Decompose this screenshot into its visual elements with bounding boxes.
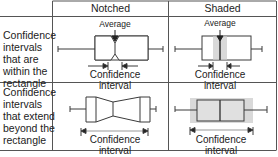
row-label-line: within the — [3, 65, 56, 77]
row-label-line: Confidence — [3, 29, 56, 41]
average-label-notched: Average — [95, 19, 135, 29]
row-label-line: intervals — [3, 98, 56, 110]
row-label-line: that are — [3, 53, 56, 65]
row-label-line: that extend — [3, 110, 56, 122]
ci-caption-line: interval — [191, 145, 251, 156]
notched-boxplot-beyond — [70, 97, 156, 122]
column-header-shaded: Shaded — [169, 1, 276, 15]
ci-caption-line: Confidence — [190, 69, 250, 80]
row-label-within: Confidence intervals that are within the… — [3, 29, 56, 89]
row-label-beyond: Confidence intervals that extend beyond … — [3, 86, 56, 146]
shaded-boxplot-beyond — [175, 98, 267, 123]
column-header-notched: Notched — [53, 1, 168, 15]
row-label-line: beyond the — [3, 122, 56, 134]
boxplot-ci-comparison-table: Notched Shaded Confidence intervals that… — [0, 0, 278, 157]
row-label-line: intervals — [3, 41, 56, 53]
notched-boxplot-within — [58, 36, 163, 60]
row-label-line: Confidence — [3, 86, 56, 98]
ci-caption-line: interval — [85, 145, 145, 156]
ci-caption-line: Confidence — [85, 134, 145, 145]
ci-caption-notched-beyond: Confidence interval — [85, 134, 145, 156]
ci-caption-shaded-beyond: Confidence interval — [191, 134, 251, 156]
ci-caption-line: interval — [190, 80, 250, 91]
shaded-boxplot-within — [175, 36, 262, 60]
ci-caption-shaded-within: Confidence interval — [190, 69, 250, 91]
ci-caption-line: interval — [85, 80, 145, 91]
ci-caption-notched-within: Confidence interval — [85, 69, 145, 91]
row-label-line: rectangle — [3, 134, 56, 146]
ci-caption-line: Confidence — [85, 69, 145, 80]
ci-caption-line: Confidence — [191, 134, 251, 145]
average-label-shaded: Average — [200, 18, 240, 28]
